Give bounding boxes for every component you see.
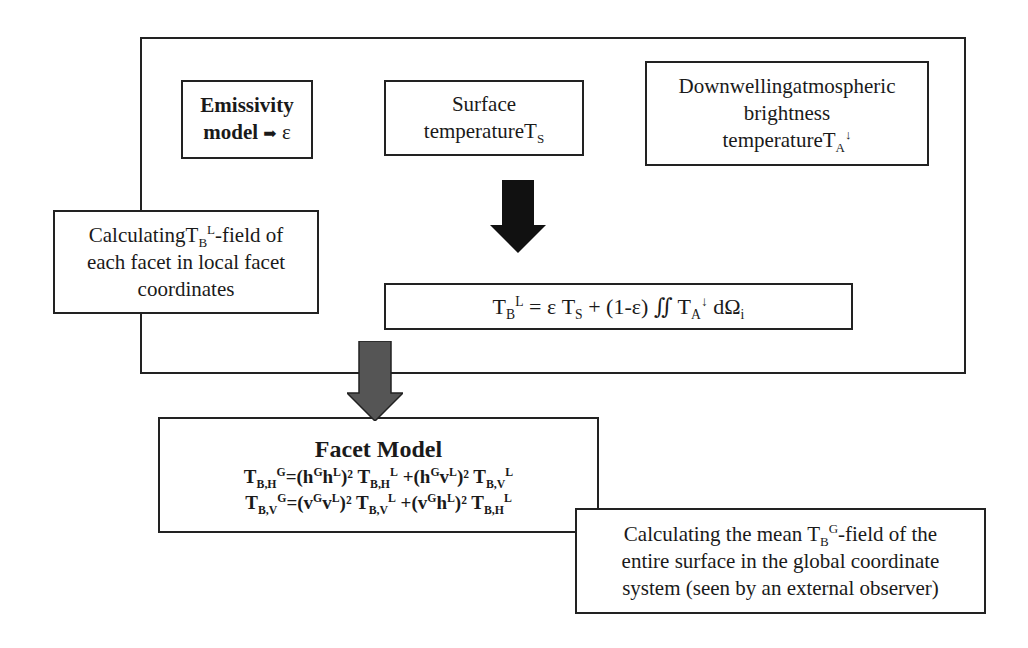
eq2-t1-end: )² T [340,492,369,513]
eq1-t2-sup: L [505,466,513,479]
down-arrow-icon [490,180,546,253]
eq-rhs-part3: dΩ [708,294,741,319]
emissivity-label: Emissivity [200,92,293,119]
eq2-t2-sub: B,H [484,504,504,517]
eq1-t2-end: )² T [457,466,486,487]
surface-label: Surface [452,91,516,118]
eq2-t2-end: )² T [455,492,484,513]
local-callout-line1: CalculatingTBL-field of [89,222,284,249]
eq1-t1-sub: B,H [370,478,390,491]
eq-rhs-part2: + (1-ε) ∬ T [583,294,691,319]
tb-symbol: T [807,522,820,546]
eq1-t1-sup: L [390,466,398,479]
eq2-lhs: T [245,492,258,513]
global-callout-line2: entire surface in the global coordinate [622,548,940,575]
eq-rhs-sup2: ↓ [701,294,708,309]
emissivity-line2: model ➡ ε [203,119,291,147]
right-arrow-icon: ➡ [263,125,276,142]
down-arrow-icon: ↓ [845,127,852,142]
eq1-t1-sup-b: L [333,466,341,479]
downwelling-line1: Downwellingatmospheric [679,73,896,100]
eq1-t2-sup-b: L [449,466,457,479]
facet-equation-vertical: TB,VG=(vGvL)² TB,VL +(vGhL)² TB,HL [245,490,512,516]
ta-subscript: A [836,140,845,155]
eq1-lhs-sup: G [276,466,285,479]
eq2-t1-sup-a: G [313,492,322,505]
eq2-lhs-sub: B,V [258,504,277,517]
text-field-of-the: -field of the [838,522,937,546]
facet-model-box: Facet Model TB,HG=(hGhL)² TB,HL +(hGvL)²… [158,417,599,533]
eq-lhs-symbol: T [493,294,506,319]
ta-symbol: T [823,128,836,152]
eq2-t2: +(v [396,492,427,513]
temperature-word: temperature [424,119,524,143]
eq2-t2-sup: L [504,492,512,505]
tb-subscript: B [198,235,207,250]
downwelling-line3: temperatureTA↓ [722,127,851,154]
down-arrow-icon [347,341,403,421]
local-brightness-equation: TBL = ε TS + (1-ε) ∬ TA↓ dΩi [384,283,853,330]
eq2-t1-sub: B,V [369,504,388,517]
eq1-t2-sup-a: G [430,466,439,479]
local-callout-line3: coordinates [138,276,235,303]
eq-lhs-sub: B [506,307,515,322]
text-field-of: -field of [215,223,283,247]
local-field-callout: CalculatingTBL-field of each facet in lo… [53,210,319,314]
eq1-t2-sub: B,V [486,478,505,491]
eq-rhs-part1: = ε T [523,294,575,319]
eq2-t1-sup-b: L [332,492,340,505]
tb-subscript: B [820,534,829,549]
surface-temperature-box: Surface temperatureTS [384,80,584,156]
eq2-t2-b: h [436,492,447,513]
model-word: model [203,120,258,144]
global-callout-line3: system (seen by an external observer) [622,575,939,602]
eq1-lhs-sub: B,H [257,478,277,491]
surface-temperature-line: temperatureTS [424,118,544,145]
emissivity-model-box: Emissivity model ➡ ε [181,80,313,159]
eq1-t1-sup-a: G [313,466,322,479]
text-calculating: Calculating [89,223,186,247]
downwelling-line2: brightness [744,100,830,127]
tb-superscript: G [829,521,838,536]
eq1-t2-b: v [440,466,450,487]
eq-rhs-sub2: A [691,307,701,322]
temperature-word: temperature [722,128,822,152]
downwelling-temperature-box: Downwellingatmospheric brightness temper… [645,61,929,166]
eq1-lhs: T [244,466,257,487]
facet-model-title: Facet Model [315,434,442,464]
global-field-callout: Calculating the mean TBG-field of the en… [575,508,986,614]
tb-symbol: T [186,223,199,247]
eq2-t2-sup-b: L [447,492,455,505]
eq1-t1-b: h [323,466,334,487]
eq-rhs-sub1: S [575,307,583,322]
eq2-t1: =(v [286,492,313,513]
eq2-t1-sup: L [388,492,396,505]
global-callout-line1: Calculating the mean TBG-field of the [624,521,937,548]
equation-text: TBL = ε TS + (1-ε) ∬ TA↓ dΩi [493,293,745,320]
epsilon-symbol: ε [282,120,291,144]
ts-subscript: S [537,131,544,146]
eq-rhs-sub3: i [741,307,745,322]
eq2-t1-b: v [322,492,332,513]
eq1-t1-end: )² T [341,466,370,487]
eq1-t1: =(h [286,466,314,487]
facet-equation-horizontal: TB,HG=(hGhL)² TB,HL +(hGvL)² TB,VL [244,464,513,490]
eq1-t2: +(h [398,466,430,487]
tb-superscript: L [207,222,215,237]
local-callout-line2: each facet in local facet [87,249,285,276]
text-calculating-mean: Calculating the mean [624,522,807,546]
ts-symbol: T [524,119,537,143]
